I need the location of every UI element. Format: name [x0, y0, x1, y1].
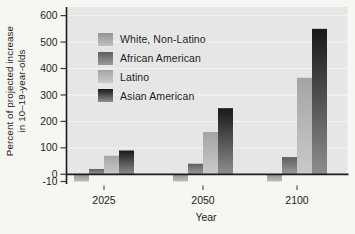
legend-label: White, Non-Latino [120, 33, 206, 45]
y-tick-label-600: 600 [40, 10, 57, 21]
bar-2100-asian-american [312, 29, 327, 174]
legend-swatch-white-non-latino [98, 33, 113, 46]
bar-2025-white-non-latino [74, 174, 89, 181]
bar-2050-asian-american [218, 108, 233, 174]
bar-2050-white-non-latino [173, 174, 188, 181]
y-axis-title-line2: in 10–19-year-olds [16, 1, 28, 181]
x-tick-label-2025: 2025 [92, 194, 116, 206]
x-tick-label-2050: 2050 [191, 194, 215, 206]
legend-swatch-asian-american [98, 89, 113, 102]
legend-item-african-american: African American [98, 49, 206, 68]
legend-swatch-latino [98, 70, 113, 83]
legend-item-asian-american: Asian American [98, 86, 206, 105]
y-tick-label-200: 200 [40, 116, 57, 127]
bar-2100-latino [297, 78, 312, 175]
y-tick-label-500: 500 [40, 37, 57, 48]
legend: White, Non-Latino African American Latin… [98, 30, 206, 105]
bar-2100-african-american [282, 157, 297, 174]
legend-swatch-african-american [98, 52, 113, 65]
legend-item-white-non-latino: White, Non-Latino [98, 30, 206, 49]
bar-2025-latino [104, 156, 119, 175]
x-tick-label-2100: 2100 [285, 194, 309, 206]
y-tick-label-0: 0 [52, 169, 58, 180]
y-axis-title: Percent of projected increase in 10–19-y… [4, 1, 28, 181]
legend-label: Latino [120, 71, 149, 83]
bar-2050-latino [203, 132, 218, 174]
legend-item-latino: Latino [98, 68, 206, 87]
y-tick-label-100: 100 [40, 142, 57, 153]
bar-2050-african-american [188, 164, 203, 175]
x-axis-title: Year [195, 211, 217, 223]
y-axis-title-line1: Percent of projected increase [4, 1, 16, 181]
bar-2025-asian-american [119, 150, 134, 174]
legend-label: African American [120, 52, 201, 64]
figure: -100100200300400500600202520502100 Year … [0, 0, 355, 234]
y-tick-label-400: 400 [40, 63, 57, 74]
bar-2100-white-non-latino [267, 174, 282, 181]
y-tick-label-300: 300 [40, 90, 57, 101]
legend-label: Asian American [120, 90, 194, 102]
